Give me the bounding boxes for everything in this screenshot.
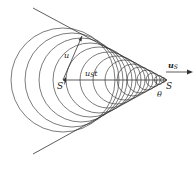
label-theta: θ [157, 91, 162, 99]
cone-line-lower [33, 80, 167, 154]
label-ust-t: t [94, 69, 97, 78]
label-s-prime: S' [57, 82, 66, 91]
label-ust: uSt [85, 70, 98, 78]
label-u-main: u [64, 51, 69, 60]
label-u: u [64, 52, 69, 60]
cone-line-upper [33, 8, 167, 80]
velocity-arrowhead [187, 70, 193, 75]
label-us-sub: S [174, 63, 178, 70]
label-us: uS [168, 61, 178, 70]
mach-cone-diagram [0, 0, 194, 174]
radius-arrowhead [79, 36, 83, 42]
label-s: S [166, 82, 172, 91]
